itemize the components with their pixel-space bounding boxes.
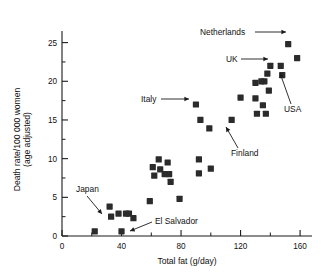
data-point-marker bbox=[254, 111, 260, 117]
data-point-marker bbox=[237, 94, 243, 100]
data-point-marker bbox=[166, 171, 172, 177]
data-point-marker bbox=[107, 204, 113, 210]
annotation-label-uk: UK bbox=[226, 54, 238, 64]
data-point-marker bbox=[294, 55, 300, 61]
data-point-marker bbox=[92, 228, 98, 234]
data-point-marker bbox=[263, 111, 269, 117]
data-point-marker bbox=[229, 117, 235, 123]
y-tick-label: 25 bbox=[48, 39, 58, 48]
y-axis-title-line2: (age adjusted) bbox=[22, 112, 32, 167]
x-tick-label: 0 bbox=[60, 242, 65, 251]
data-point-marker bbox=[156, 156, 162, 162]
annotation-label-netherlands: Netherlands bbox=[200, 27, 245, 37]
data-point-marker bbox=[278, 63, 284, 69]
annotation-arrowhead-italy bbox=[184, 97, 189, 102]
y-tick-label: 15 bbox=[48, 116, 58, 125]
x-tick-label: 120 bbox=[234, 242, 248, 251]
annotation-label-usa: USA bbox=[284, 104, 302, 114]
axes-group bbox=[62, 31, 312, 236]
x-tick-label: 160 bbox=[293, 242, 307, 251]
y-tick-label: 10 bbox=[48, 155, 58, 164]
axis-titles-group: Total fat (g/day)Death rate/100 000 wome… bbox=[12, 87, 217, 266]
data-point-marker bbox=[176, 196, 182, 202]
annotation-arrowhead-netherlands bbox=[281, 30, 286, 35]
y-tick-label: 5 bbox=[52, 193, 57, 202]
y-axis-title-line1: Death rate/100 000 women bbox=[12, 87, 22, 191]
annotation-label-italy: Italy bbox=[141, 94, 157, 104]
annotation-label-japan: Japan bbox=[76, 184, 99, 194]
annotation-arrowhead-uk bbox=[263, 57, 268, 62]
data-point-marker bbox=[267, 63, 273, 69]
x-axis-title: Total fat (g/day) bbox=[157, 256, 216, 266]
annotation-leader-usa bbox=[280, 73, 291, 104]
data-point-marker bbox=[147, 198, 153, 204]
y-axis-ticks bbox=[62, 43, 68, 236]
data-point-marker bbox=[261, 78, 267, 84]
data-point-marker bbox=[264, 70, 270, 76]
data-point-marker bbox=[108, 214, 114, 220]
data-point-marker bbox=[168, 179, 174, 185]
data-point-marker bbox=[285, 41, 291, 47]
data-point-marker bbox=[115, 210, 121, 216]
y-tick-labels: 0510152025 bbox=[48, 39, 58, 241]
data-point-marker bbox=[260, 102, 266, 108]
data-points-group bbox=[92, 41, 301, 234]
data-point-marker bbox=[208, 166, 214, 172]
data-point-marker bbox=[165, 159, 171, 165]
x-tick-label: 40 bbox=[117, 242, 127, 251]
annotations-group: NetherlandsUKUSAItalyFinlandJapanEl Salv… bbox=[76, 27, 302, 231]
data-point-marker bbox=[196, 170, 202, 176]
data-point-marker bbox=[118, 228, 124, 234]
data-point-marker bbox=[193, 101, 199, 107]
data-point-marker bbox=[130, 215, 136, 221]
annotation-label-el-salvador: El Salvador bbox=[155, 216, 198, 226]
data-point-marker bbox=[150, 164, 156, 170]
data-point-marker bbox=[252, 95, 258, 101]
data-point-marker bbox=[197, 117, 203, 123]
scatter-plot-figure: 04080120160 0510152025 NetherlandsUKUSAI… bbox=[0, 0, 323, 274]
plot-canvas: 04080120160 0510152025 NetherlandsUKUSAI… bbox=[0, 0, 323, 274]
x-tick-labels: 04080120160 bbox=[60, 242, 308, 251]
y-tick-label: 0 bbox=[52, 232, 57, 241]
data-point-marker bbox=[206, 125, 212, 131]
data-point-marker bbox=[266, 87, 272, 93]
x-tick-label: 80 bbox=[176, 242, 186, 251]
annotation-label-finland: Finland bbox=[231, 148, 259, 158]
data-point-marker bbox=[252, 80, 258, 86]
y-tick-label: 20 bbox=[48, 77, 58, 86]
data-point-marker bbox=[151, 173, 157, 179]
data-point-marker bbox=[196, 156, 202, 162]
